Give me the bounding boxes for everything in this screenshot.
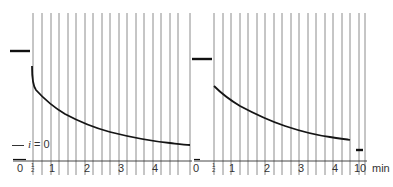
right-tick-0: 0 <box>193 162 199 174</box>
left-tick-2: 2 <box>84 162 90 174</box>
legend-dash-icon <box>12 145 24 146</box>
right-tick-half: 12 <box>212 163 215 173</box>
start-level-markers <box>10 51 363 160</box>
x-axis-unit: min <box>372 162 390 174</box>
right-tick-4: 4 <box>332 162 338 174</box>
chart-canvas <box>0 0 393 187</box>
left-tick-half: 12 <box>31 163 34 173</box>
right-tick-2: 2 <box>264 162 270 174</box>
legend-value: = 0 <box>31 138 50 150</box>
left-tick-4: 4 <box>152 162 158 174</box>
right-tick-10: 10 <box>354 162 366 174</box>
legend-zero-current: i = 0 <box>12 138 50 150</box>
left-tick-0: 0 <box>17 162 23 174</box>
left-trace <box>32 66 190 145</box>
left-tick-3: 3 <box>118 162 124 174</box>
right-tick-3: 3 <box>298 162 304 174</box>
right-grid-lines <box>214 13 365 175</box>
left-grid-lines <box>33 13 190 175</box>
right-tick-1: 1 <box>229 162 235 174</box>
left-tick-1: 1 <box>49 162 55 174</box>
